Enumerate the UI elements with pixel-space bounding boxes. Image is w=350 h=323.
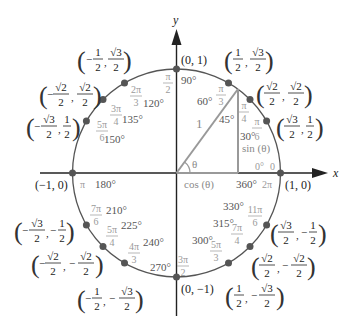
svg-text:2: 2 (50, 265, 56, 277)
point-150 (83, 118, 90, 125)
svg-text:1: 1 (310, 219, 316, 231)
svg-text:2: 2 (95, 61, 101, 73)
point-210 (83, 222, 90, 229)
svg-text:,: , (71, 91, 74, 103)
svg-text:−: − (69, 257, 75, 269)
coord-225: ( − √2 2 , − √2 2 ) (31, 250, 104, 279)
svg-text:2: 2 (94, 300, 100, 312)
svg-text:(: ( (77, 46, 86, 75)
svg-text:2: 2 (83, 265, 89, 277)
svg-text:240°: 240° (143, 236, 164, 248)
svg-text:√3: √3 (31, 217, 43, 229)
point-315 (247, 243, 254, 250)
svg-text:,: , (277, 262, 280, 274)
svg-text:5π: 5π (107, 224, 117, 235)
svg-text:2: 2 (181, 267, 186, 278)
svg-text:,: , (296, 229, 299, 241)
svg-text:,: , (104, 56, 107, 68)
svg-text:225°: 225° (121, 219, 142, 231)
svg-text:2: 2 (58, 96, 64, 108)
coord-45: ( √2 2 , √2 2 ) (256, 80, 313, 109)
svg-text:,: , (245, 292, 248, 304)
svg-text:4: 4 (110, 237, 115, 248)
svg-text:2: 2 (124, 300, 130, 312)
svg-text:√3: √3 (280, 219, 292, 231)
svg-text:−: − (39, 257, 45, 269)
hypotenuse-label: 1 (196, 116, 203, 131)
svg-text:2: 2 (34, 232, 40, 244)
point-225 (100, 243, 107, 250)
svg-text:,: , (103, 295, 106, 307)
svg-text:2: 2 (255, 61, 261, 73)
svg-text:120°: 120° (143, 97, 164, 109)
svg-text:−: − (282, 259, 288, 271)
coord-30: ( √3 2 , 1 2 ) (276, 113, 324, 142)
point-270 (173, 274, 180, 281)
svg-text:11π: 11π (248, 204, 263, 215)
y-axis-arrow-icon (172, 29, 182, 45)
svg-text:): ) (123, 46, 132, 75)
angle-150: 5π 6 150° (96, 119, 125, 145)
svg-text:5π: 5π (211, 239, 221, 250)
svg-text:): ) (276, 282, 285, 311)
svg-text:√2: √2 (47, 250, 59, 262)
y-axis-label: y (172, 13, 179, 27)
svg-text:0°: 0° (255, 161, 264, 172)
svg-text:,: , (58, 123, 61, 135)
svg-text:π: π (165, 71, 170, 82)
svg-text:√2: √2 (290, 80, 302, 92)
point-240 (121, 260, 128, 267)
point-60 (225, 80, 232, 87)
svg-text:): ) (315, 113, 324, 142)
angle-45: 45° π 4 (219, 100, 249, 125)
svg-text:135°: 135° (122, 113, 143, 125)
svg-text:3: 3 (219, 96, 224, 107)
svg-text:√3: √3 (110, 46, 122, 58)
svg-text:,: , (245, 56, 248, 68)
svg-text:330°: 330° (223, 200, 244, 212)
svg-text:): ) (66, 217, 75, 246)
svg-text:): ) (93, 81, 102, 110)
svg-text:60°: 60° (197, 95, 212, 107)
svg-text:2: 2 (293, 95, 299, 107)
point-180 (69, 170, 76, 177)
point-0 (277, 170, 284, 177)
svg-text:−: − (22, 224, 28, 236)
svg-text:): ) (95, 250, 104, 279)
coord-0: (1, 0) (285, 178, 311, 192)
svg-text:√2: √2 (80, 250, 92, 262)
angle-300: 300° 5π 3 (192, 234, 222, 263)
svg-text:1: 1 (95, 46, 101, 58)
svg-text:3π: 3π (178, 254, 188, 265)
svg-text:): ) (135, 285, 144, 314)
svg-text:30°: 30° (240, 130, 255, 142)
coord-90: (0, 1) (181, 53, 207, 67)
svg-text:2: 2 (46, 128, 52, 140)
svg-text:−: − (50, 224, 56, 236)
x-axis-arrow-icon (312, 168, 328, 178)
unit-circle-svg: x y θ 1 cos (θ) sin (θ) (0, 1) (1, 0) (−… (0, 0, 350, 323)
svg-text:2: 2 (64, 128, 70, 140)
svg-text:1: 1 (59, 217, 65, 229)
svg-text:4π: 4π (129, 241, 139, 252)
svg-text:,: , (282, 90, 285, 102)
svg-text:,: , (46, 227, 49, 239)
svg-text:−: − (301, 226, 307, 238)
svg-text:(: ( (251, 252, 260, 281)
svg-text:(: ( (276, 113, 285, 142)
svg-text:√2: √2 (79, 81, 91, 93)
coord-315: ( √2 2 , − √2 2 ) (251, 252, 316, 281)
svg-text:): ) (318, 219, 327, 248)
svg-text:360°: 360° (236, 178, 257, 190)
svg-text:3: 3 (132, 254, 137, 265)
svg-text:2: 2 (264, 297, 270, 309)
svg-text:−: − (34, 120, 40, 132)
svg-text:2: 2 (113, 61, 119, 73)
svg-text:−: − (47, 88, 53, 100)
svg-text:2: 2 (307, 128, 313, 140)
coord-150: ( − √3 2 , 1 2 ) (26, 113, 81, 142)
theta-label: θ (192, 158, 197, 170)
svg-text:45°: 45° (219, 113, 234, 125)
cos-label: cos (θ) (184, 178, 214, 191)
coord-270: (0, −1) (181, 282, 214, 296)
